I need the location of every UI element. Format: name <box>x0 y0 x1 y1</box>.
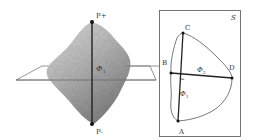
axis-phi-label: Φ <box>96 64 103 73</box>
particle-shape-diagram: P+ P- Φ 1 S C A B D Φ 2 Φ 1 <box>0 0 253 140</box>
axis-top-label: P+ <box>96 12 107 20</box>
point-a <box>177 120 180 123</box>
axis-phi-subscript: 1 <box>103 69 106 74</box>
axis-bottom-point <box>90 122 94 126</box>
phi1-subscript: 1 <box>186 94 189 99</box>
label-d: D <box>229 64 235 72</box>
rock-particle <box>47 22 131 124</box>
section-panel-label: S <box>231 14 236 22</box>
label-b: B <box>162 59 167 67</box>
axis-top-point <box>90 20 94 24</box>
label-c: C <box>185 24 190 32</box>
point-b <box>170 72 173 75</box>
phi2-subscript: 2 <box>203 70 206 75</box>
label-a: A <box>178 128 185 136</box>
point-d <box>231 77 234 80</box>
axis-bottom-label: P- <box>96 128 103 136</box>
